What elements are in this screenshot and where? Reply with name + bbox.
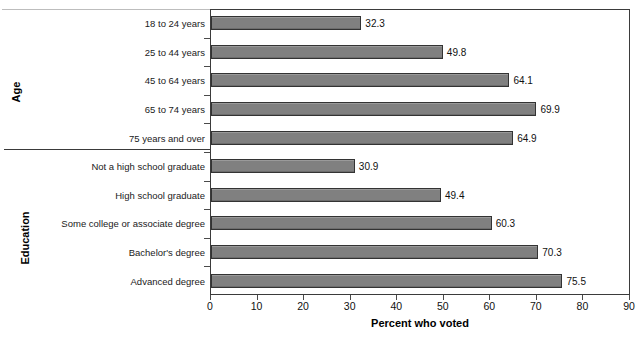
bar-value-label: 64.9 xyxy=(513,132,536,143)
category-label: Bachelor's degree xyxy=(129,247,205,258)
x-axis-tick-label: 70 xyxy=(530,300,542,312)
bar-row: 75 years and over64.9 xyxy=(0,123,641,152)
bar-value-label: 30.9 xyxy=(355,161,378,172)
y-axis-tick xyxy=(204,152,210,153)
y-axis-tick xyxy=(204,209,210,210)
bar-value-label: 69.9 xyxy=(536,104,559,115)
x-axis-tick-label: 40 xyxy=(390,300,402,312)
category-label: Some college or associate degree xyxy=(61,218,205,229)
bar-row: Advanced degree75.5 xyxy=(0,266,641,295)
category-label: 45 to 64 years xyxy=(145,75,205,86)
bar xyxy=(211,245,538,259)
bar-row: Not a high school graduate30.9 xyxy=(0,152,641,181)
category-label: High school graduate xyxy=(115,189,205,200)
x-axis-tick-label: 50 xyxy=(437,300,449,312)
bar-value-label: 49.4 xyxy=(441,189,464,200)
bar xyxy=(211,45,443,59)
x-axis-tick-label: 30 xyxy=(344,300,356,312)
bar-row: High school graduate49.4 xyxy=(0,181,641,210)
y-axis-tick xyxy=(204,238,210,239)
bar xyxy=(211,188,441,202)
category-label: Not a high school graduate xyxy=(91,161,205,172)
x-axis-tick-label: 60 xyxy=(483,300,495,312)
x-axis-tick-label: 10 xyxy=(251,300,263,312)
bar xyxy=(211,102,536,116)
x-axis-title: Percent who voted xyxy=(210,317,630,329)
category-label: 75 years and over xyxy=(129,132,205,143)
x-axis-tick-label: 80 xyxy=(577,300,589,312)
y-axis-tick xyxy=(204,123,210,124)
category-label: Advanced degree xyxy=(131,275,205,286)
category-label: 18 to 24 years xyxy=(145,18,205,29)
bar-value-label: 49.8 xyxy=(443,46,466,57)
bar xyxy=(211,274,562,288)
bar-row: 18 to 24 years32.3 xyxy=(0,9,641,38)
y-axis-tick xyxy=(204,66,210,67)
category-label: 25 to 44 years xyxy=(145,46,205,57)
bar-value-label: 60.3 xyxy=(492,218,515,229)
bar-value-label: 75.5 xyxy=(562,275,585,286)
bar-value-label: 70.3 xyxy=(538,247,561,258)
x-axis-tick-labels: 0102030405060708090 xyxy=(210,300,630,314)
x-axis-tick-label: 20 xyxy=(297,300,309,312)
category-label: 65 to 74 years xyxy=(145,104,205,115)
x-axis-tick-label: 90 xyxy=(623,300,635,312)
y-axis-tick xyxy=(204,266,210,267)
bar-chart: Age Education 18 to 24 years32.325 to 44… xyxy=(0,0,641,340)
y-axis-tick xyxy=(204,181,210,182)
bar xyxy=(211,73,509,87)
bar-row: 65 to 74 years69.9 xyxy=(0,95,641,124)
y-axis-tick xyxy=(204,38,210,39)
bar-row: Some college or associate degree60.3 xyxy=(0,209,641,238)
bar xyxy=(211,159,355,173)
bar xyxy=(211,216,492,230)
x-axis-tick-label: 0 xyxy=(207,300,213,312)
bar-row: Bachelor's degree70.3 xyxy=(0,238,641,267)
bar-value-label: 32.3 xyxy=(361,18,384,29)
bar xyxy=(211,16,361,30)
y-axis-tick xyxy=(204,95,210,96)
bar xyxy=(211,131,513,145)
bar-value-label: 64.1 xyxy=(509,75,532,86)
bar-row: 45 to 64 years64.1 xyxy=(0,66,641,95)
bar-row: 25 to 44 years49.8 xyxy=(0,38,641,67)
